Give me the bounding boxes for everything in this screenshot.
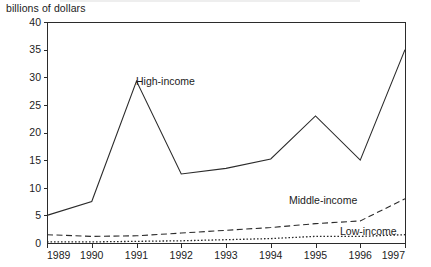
y-tick-label: 0	[35, 237, 41, 249]
y-tick-label: 20	[29, 126, 41, 138]
x-tick-label: 1992	[170, 249, 194, 261]
line-chart: billions of dollars 0510152025303540 198…	[0, 0, 431, 267]
y-tick-label: 10	[29, 182, 41, 194]
x-tick-label: 1995	[304, 249, 328, 261]
y-tick-label: 5	[35, 209, 41, 221]
x-tick-label: 1990	[80, 249, 104, 261]
y-tick-label: 30	[29, 71, 41, 83]
data-series-group	[47, 50, 405, 242]
y-tick-label: 15	[29, 154, 41, 166]
series-label-low-income: Low-income	[340, 225, 397, 237]
y-axis-ticks: 0510152025303540	[29, 16, 47, 249]
series-annotations: High-incomeMiddle-incomeLow-income	[136, 75, 397, 237]
x-axis-ticks: 198919901991199219931994199519961997	[47, 244, 406, 262]
plot-frame	[48, 23, 406, 244]
y-tick-label: 35	[29, 43, 41, 55]
series-label-high-income: High-income	[136, 75, 195, 87]
series-line-high-income	[47, 50, 405, 216]
y-tick-label: 25	[29, 99, 41, 111]
x-tick-label: 1994	[259, 249, 283, 261]
x-tick-label: 1996	[349, 249, 373, 261]
series-label-middle-income: Middle-income	[289, 194, 357, 206]
x-tick-label: 1997	[382, 249, 406, 261]
y-tick-label: 40	[29, 16, 41, 28]
x-tick-label: 1991	[125, 249, 149, 261]
x-tick-label: 1993	[214, 249, 238, 261]
x-tick-label: 1989	[47, 249, 71, 261]
plot-area: 0510152025303540 19891990199119921993199…	[0, 0, 431, 267]
